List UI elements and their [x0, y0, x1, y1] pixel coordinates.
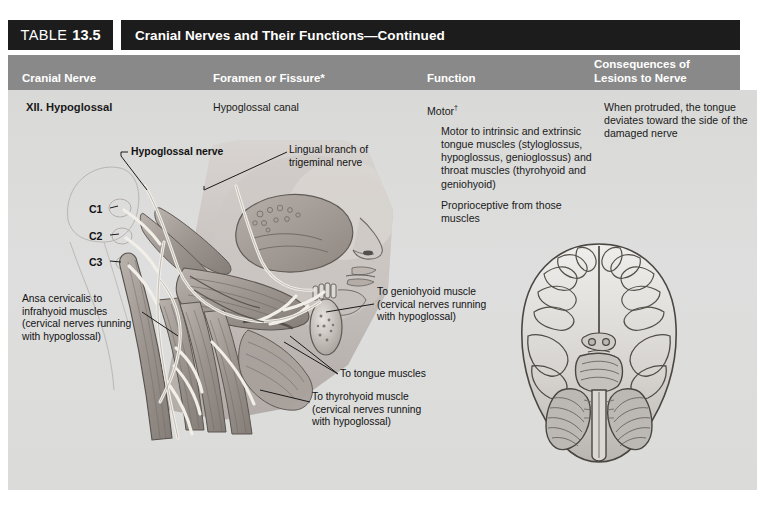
column-header-consequences-line1: Consequences of [594, 58, 690, 72]
figure-label-lingual-branch: Lingual branch oftrigeminal nerve [289, 144, 368, 169]
table-number: 13.5 [72, 27, 100, 43]
table-body-panel: XII. Hypoglossal Hypoglossal canal Motor… [8, 90, 757, 490]
figure-label-to-tongue-muscles: To tongue muscles [340, 368, 426, 381]
figure-label-c1: C1 [89, 203, 102, 216]
function-heading-superscript: † [454, 104, 458, 111]
table-title-block: Cranial Nerves and Their Functions—Conti… [121, 20, 740, 50]
column-header-foramen: Foramen or Fissure* [213, 72, 325, 86]
consequences-text: When protruded, the tongue deviates towa… [604, 101, 754, 141]
figure-label-hypoglossal-nerve: Hypoglossal nerve [131, 146, 223, 159]
column-header-consequences: Consequences of Lesions to Nerve [594, 58, 690, 85]
table-title: Cranial Nerves and Their Functions—Conti… [121, 28, 445, 43]
column-header-consequences-line2: Lesions to Nerve [594, 72, 690, 86]
figure-label-to-geniohyoid: To geniohyoid muscle (cervical nerves ru… [377, 286, 502, 324]
table-number-block: TABLE 13.5 [8, 20, 113, 50]
cell-foramen: Hypoglossal canal [213, 101, 299, 114]
figure-label-ansa-cervicalis: Ansa cervicalis to infrahyoid muscles (c… [22, 293, 140, 343]
table-title-row: TABLE 13.5 Cranial Nerves and Their Func… [8, 20, 740, 50]
function-heading: Motor† [427, 101, 592, 118]
cell-cranial-nerve: XII. Hypoglossal [26, 101, 112, 114]
function-paragraph-2: Proprioceptive from those muscles [427, 199, 592, 225]
figure-label-c2: C2 [89, 230, 102, 243]
function-paragraph-1: Motor to intrinsic and extrinsic tongue … [427, 125, 592, 191]
table-column-header-band: Cranial Nerve Foramen or Fissure* Functi… [8, 55, 740, 90]
column-header-cranial-nerve: Cranial Nerve [22, 72, 96, 86]
figure-label-to-thyrohyoid: To thyrohyoid muscle (cervical nerves ru… [312, 391, 442, 429]
cell-function: Motor† Motor to intrinsic and extrinsic … [427, 101, 592, 225]
cell-consequences: When protruded, the tongue deviates towa… [604, 101, 754, 141]
table-label-word: TABLE [20, 27, 67, 43]
function-heading-text: Motor [427, 105, 454, 117]
column-header-function: Function [427, 72, 476, 86]
table-figure-page: TABLE 13.5 Cranial Nerves and Their Func… [0, 0, 765, 516]
figure-label-c3: C3 [89, 256, 102, 269]
brain-inferior-view-illustration [522, 244, 676, 462]
